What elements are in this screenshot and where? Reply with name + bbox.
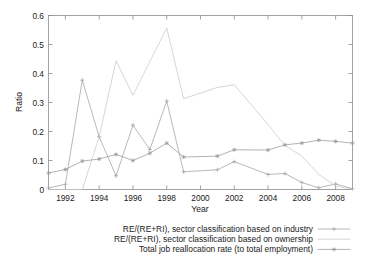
legend-label-0: RE/(RE+RI), sector classification based … — [123, 224, 314, 234]
x-tick-label: 1994 — [90, 193, 109, 203]
y-tick-label: 0 — [39, 185, 44, 195]
legend-label-1: RE/(RE+RI), sector classification based … — [114, 234, 313, 244]
y-tick-label: 0.4 — [32, 69, 44, 79]
x-tick-label: 2008 — [326, 193, 345, 203]
chart-figure: 00.10.20.30.40.50.6 19921994199619982000… — [0, 0, 367, 266]
x-tick-label: 2004 — [259, 193, 278, 203]
legend-label-2: Total job reallocation rate (to total em… — [139, 244, 313, 254]
x-tick-label: 2002 — [225, 193, 244, 203]
x-tick-label: 1998 — [157, 193, 176, 203]
x-axis-title: Year — [191, 204, 209, 214]
x-tick-label: 1996 — [124, 193, 143, 203]
y-tick-label: 0.1 — [32, 156, 44, 166]
x-axis-tick-labels: 199219941996199820002002200420062008 — [56, 193, 345, 203]
x-tick-label: 1992 — [56, 193, 75, 203]
y-axis-title: Ratio — [14, 92, 24, 112]
y-tick-label: 0.2 — [32, 127, 44, 137]
legend-sample-marker-2 — [332, 247, 336, 251]
x-tick-label: 2000 — [191, 193, 210, 203]
x-tick-label: 2006 — [293, 193, 312, 203]
y-tick-label: 0.3 — [32, 98, 44, 108]
y-tick-label: 0.6 — [32, 11, 44, 21]
y-tick-label: 0.5 — [32, 40, 44, 50]
line-chart: 00.10.20.30.40.50.6 19921994199619982000… — [0, 0, 367, 266]
